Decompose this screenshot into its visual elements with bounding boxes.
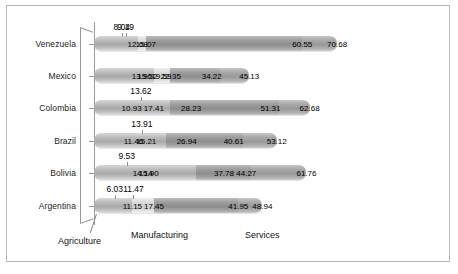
callout-label: 9.19: [107, 22, 145, 32]
callout-label: 13.91: [123, 119, 161, 129]
data-label: 70.68: [319, 40, 355, 49]
callout-label: 11.47: [114, 184, 152, 194]
data-label: 14.14: [125, 169, 161, 178]
callout-label: 9.53: [108, 151, 146, 161]
data-label: 40.61: [216, 137, 252, 146]
data-label: 17.45: [136, 202, 172, 211]
callout-label: 13.62: [122, 86, 160, 96]
axis-label-argentina: Argentina: [0, 201, 76, 211]
axis-label-bolivia: Bolivia: [0, 168, 76, 178]
axis-label-mexico: Mexico: [0, 71, 76, 81]
group-label-manufacturing: Manufacturing: [131, 230, 188, 240]
data-label: 45.13: [231, 72, 267, 81]
data-label: 60.55: [284, 40, 320, 49]
data-label: 11.46: [115, 137, 151, 146]
callout-leader-line: [122, 33, 123, 37]
data-label: 28.23: [173, 104, 209, 113]
data-label: 15.52: [129, 72, 165, 81]
chart-plot-area: Venezuela12.6815.0760.5570.688.049.19Mex…: [0, 0, 458, 274]
chart-screenshot: Venezuela12.6815.0760.5570.688.049.19Mex…: [0, 0, 458, 274]
bar-segment: [146, 36, 302, 51]
data-label: 48.94: [244, 202, 280, 211]
callout-leader-line: [133, 195, 134, 199]
data-label: 51.31: [253, 104, 289, 113]
callout-leader-line: [126, 33, 127, 37]
data-label: 34.22: [194, 72, 230, 81]
group-label-services: Services: [245, 230, 280, 240]
axis-bracket: [80, 27, 95, 223]
callout-leader-line: [141, 97, 142, 101]
data-label: 53.12: [259, 137, 295, 146]
group-label-agriculture: Agriculture: [58, 236, 101, 246]
callout-leader-line: [115, 195, 116, 199]
axis-label-brazil: Brazil: [0, 136, 76, 146]
data-label: 37.78: [206, 169, 242, 178]
data-label: 10.93: [114, 104, 150, 113]
callout-leader-line: [127, 162, 128, 166]
axis-label-venezuela: Venezuela: [0, 39, 76, 49]
data-label: 62.68: [292, 104, 328, 113]
axis-label-colombia: Colombia: [0, 103, 76, 113]
callout-leader-line: [142, 130, 143, 134]
data-label: 26.94: [169, 137, 205, 146]
data-label: 61.76: [288, 169, 324, 178]
data-label: 15.07: [128, 40, 164, 49]
